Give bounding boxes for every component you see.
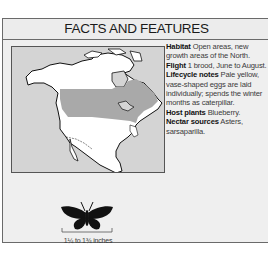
panel-title: FACTS AND FEATURES bbox=[3, 19, 268, 40]
fact-flight: Flight 1 brood, June to August. bbox=[166, 61, 268, 70]
butterfly-silhouette-icon bbox=[59, 201, 115, 233]
fact-lifecycle: Lifecycle notes Pale yellow, vase-shaped… bbox=[166, 70, 268, 108]
range-map bbox=[11, 46, 165, 173]
north-america-map-icon bbox=[12, 47, 165, 173]
wingspan-size-label: 1¼ to 1¾ inches bbox=[57, 237, 119, 244]
fact-host-plants: Host plants Blueberry. bbox=[166, 108, 268, 117]
fact-nectar-sources: Nectar sources Asters, sarsaparilla. bbox=[166, 117, 268, 136]
facts-list: Habitat Open areas, new growth areas of … bbox=[166, 42, 268, 136]
fact-habitat: Habitat Open areas, new growth areas of … bbox=[166, 42, 268, 61]
facts-and-features-panel: FACTS AND FEATURES Habitat Open areas, n… bbox=[2, 18, 268, 243]
